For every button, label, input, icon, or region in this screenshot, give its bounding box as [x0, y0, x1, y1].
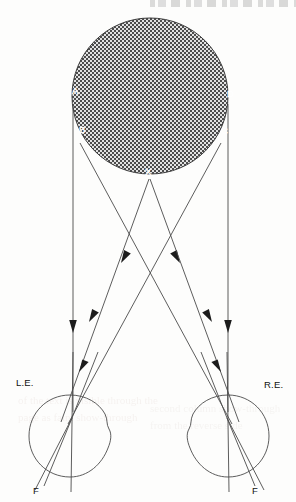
ray-X-to-right-eye [150, 179, 239, 422]
left-eye-outline [29, 395, 111, 477]
right-eye-label: R.E. [264, 379, 283, 390]
figure-page: of the text is visible through the page … [0, 0, 296, 502]
ray-diagram: A B C D X L.E. R.E. F F [0, 0, 296, 502]
arrowhead-A-ray [69, 320, 77, 333]
arrowhead-C-ray-lower [89, 309, 99, 322]
object-label-A: A [72, 85, 79, 96]
right-eye-retinal-ray-from-X [227, 418, 255, 486]
object-label-D: D [227, 88, 234, 99]
left-eye-retinal-ray-from-C [35, 418, 72, 490]
left-eye-fovea-label: F [33, 485, 39, 496]
right-eye-fovea-label: F [252, 485, 258, 496]
hatched-disc [72, 18, 228, 174]
arrowhead-D-ray [224, 320, 232, 333]
object-label-X: X [145, 166, 152, 177]
left-eye-label: L.E. [16, 377, 34, 388]
right-eye-retinal-ray-from-B [227, 418, 264, 490]
object-label-C: C [221, 125, 228, 136]
ray-X-to-left-eye [61, 179, 149, 422]
object-label-B: B [79, 124, 86, 135]
arrowhead-X-right-ray [211, 360, 221, 372]
ray-B-to-right-eye [80, 143, 232, 424]
arrowhead-X-left-ray [79, 360, 89, 372]
arrowhead-B-ray-lower [202, 309, 212, 322]
left-eye-visual-axis [71, 352, 73, 492]
ray-C-to-left-eye [68, 143, 221, 424]
